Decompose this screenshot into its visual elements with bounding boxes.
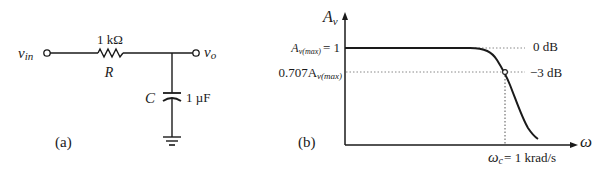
max-gain-label: Av(max)= 1 xyxy=(290,40,340,56)
output-label: vo xyxy=(204,44,217,61)
output-terminal-icon xyxy=(193,50,199,56)
resistor-value: 1 kΩ xyxy=(97,32,123,47)
cutoff-point-icon xyxy=(503,70,508,75)
resistor-icon xyxy=(98,49,123,57)
input-terminal-icon xyxy=(44,50,50,56)
y-axis-arrow-icon xyxy=(342,12,348,20)
resistor-symbol: R xyxy=(104,65,114,80)
minus3-db-label: −3 dB xyxy=(530,65,563,80)
ground-icon xyxy=(163,137,181,145)
zero-db-label: 0 dB xyxy=(533,39,558,54)
input-label: vin xyxy=(18,45,34,62)
y-axis-label: Av xyxy=(322,8,338,27)
x-axis-label: ω xyxy=(580,132,592,151)
response-curve xyxy=(345,48,538,139)
figure: vin vo 1 kΩ R C 1 µF (a) xyxy=(0,0,607,172)
panel-label-b: (b) xyxy=(298,134,316,151)
panel-label-a: (a) xyxy=(55,134,72,151)
circuit-panel: vin vo 1 kΩ R C 1 µF (a) xyxy=(18,32,217,151)
cutoff-frequency-label: ωc= 1 krad/s xyxy=(488,149,556,166)
cutoff-gain-label: 0.707Av(max) xyxy=(278,65,342,81)
capacitor-symbol: C xyxy=(145,90,156,106)
x-axis-arrow-icon xyxy=(570,142,578,148)
capacitor-value: 1 µF xyxy=(186,90,210,105)
response-panel: Av ω Av(max)= 1 0.707Av(max) 0 dB −3 dB … xyxy=(278,8,592,166)
